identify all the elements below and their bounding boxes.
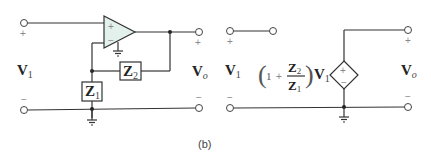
figure-caption: (b) bbox=[198, 138, 211, 150]
output-terminal-positive bbox=[405, 27, 412, 34]
source-plus-sign: + bbox=[340, 65, 346, 76]
svg-text:): ) bbox=[305, 60, 314, 89]
output-minus-mark: − bbox=[196, 92, 202, 103]
input-terminal-end bbox=[270, 28, 277, 35]
gain-denominator: Z1 bbox=[288, 78, 301, 94]
source-minus-sign: − bbox=[341, 77, 347, 88]
gain-plus: + bbox=[276, 71, 282, 82]
input-voltage-label: V1 bbox=[17, 62, 33, 80]
gain-expression: ( 1 + Z2 Z1 ) V1 bbox=[258, 60, 330, 94]
gain-voltage: V1 bbox=[314, 66, 330, 84]
input-plus-mark: + bbox=[227, 36, 233, 47]
opamp-plus-sign: + bbox=[108, 21, 114, 32]
input-plus-mark: + bbox=[20, 28, 26, 39]
output-plus-mark: + bbox=[195, 37, 201, 48]
ground-icon bbox=[87, 109, 97, 125]
gain-one: 1 bbox=[266, 70, 272, 82]
input-terminal-positive bbox=[227, 28, 234, 35]
output-voltage-label: Vo bbox=[401, 62, 417, 80]
right-circuit: + + − − + − V1 Vo ( bbox=[225, 27, 417, 123]
input-terminal-negative bbox=[227, 105, 234, 112]
input-terminal-positive bbox=[21, 20, 28, 27]
output-voltage-label: Vo bbox=[192, 63, 208, 81]
input-terminal-negative bbox=[21, 107, 28, 114]
input-minus-mark: − bbox=[21, 94, 27, 105]
opamp-minus-sign: − bbox=[108, 35, 114, 46]
output-minus-mark: − bbox=[405, 91, 411, 102]
left-circuit: + − Z2 Z1 bbox=[17, 16, 208, 125]
circuit-diagram: + − Z2 Z1 bbox=[0, 0, 431, 160]
output-terminal-negative bbox=[196, 105, 203, 112]
ground-rail bbox=[27, 108, 197, 110]
ground-rail bbox=[233, 107, 405, 108]
output-terminal-negative bbox=[405, 104, 412, 111]
input-minus-mark: − bbox=[227, 92, 233, 103]
ground-icon bbox=[113, 51, 123, 56]
output-terminal-positive bbox=[196, 29, 203, 36]
output-plus-mark: + bbox=[405, 35, 411, 46]
gain-numerator: Z2 bbox=[288, 60, 301, 76]
input-voltage-label: V1 bbox=[225, 62, 241, 80]
ground-icon bbox=[339, 107, 349, 122]
